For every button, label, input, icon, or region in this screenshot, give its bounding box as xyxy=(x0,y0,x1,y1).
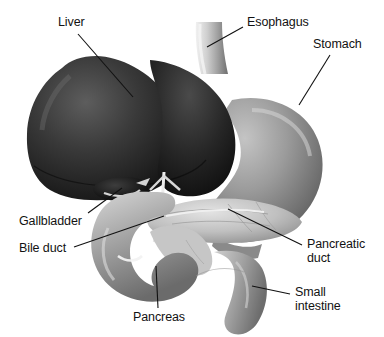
label-bile-duct: Bile duct xyxy=(19,242,66,256)
label-pancreatic-duct: Pancreatic duct xyxy=(307,238,365,265)
label-small-intestine: Small intestine xyxy=(295,286,341,313)
label-liver: Liver xyxy=(58,16,85,30)
label-pancreas: Pancreas xyxy=(133,311,185,325)
label-gallbladder: Gallbladder xyxy=(19,215,82,229)
label-stomach: Stomach xyxy=(313,38,362,52)
label-layer: Liver Esophagus Stomach Gallbladder Bile… xyxy=(0,0,384,337)
anatomy-figure: Liver Esophagus Stomach Gallbladder Bile… xyxy=(0,0,384,337)
label-esophagus: Esophagus xyxy=(247,16,309,30)
